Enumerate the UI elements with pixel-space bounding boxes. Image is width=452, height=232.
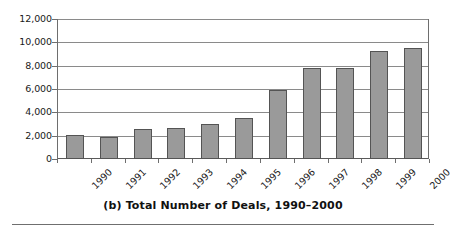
bar-1997 [303,68,321,159]
x-tick-label: 1993 [191,167,215,191]
x-tick-label: 1990 [90,167,114,191]
y-tick-label: 12,000 [0,14,52,24]
bar-1992 [134,129,152,159]
bar-2000 [404,48,422,159]
bar-1998 [336,68,354,159]
x-tick-label: 1997 [327,167,351,191]
x-tick-label: 1999 [394,167,418,191]
y-tick-label: 10,000 [0,38,52,48]
figure-caption: (b) Total Number of Deals, 1990–2000 [0,199,446,212]
y-tick-label: 4,000 [0,108,52,118]
x-tick-label: 1991 [124,167,148,191]
y-axis-labels: 02,0004,0006,0008,00010,00012,000 [0,19,52,159]
x-tick-mark [429,159,430,163]
x-tick-label: 1994 [225,167,249,191]
x-tick-label: 1998 [361,167,385,191]
y-tick-label: 0 [0,154,52,164]
bar-1995 [235,118,253,159]
x-tick-label: 2000 [428,167,452,191]
y-tick-label: 6,000 [0,84,52,94]
y-tick-label: 2,000 [0,131,52,141]
plot-area [57,19,429,159]
bottom-divider [12,224,434,225]
bar-1999 [370,51,388,160]
bar-1994 [201,124,219,159]
y-tick-label: 8,000 [0,61,52,71]
x-axis-labels: 1990199119921993199419951996199719981999… [57,163,429,199]
bar-1996 [269,90,287,159]
bar-series [58,19,428,159]
x-tick-label: 1996 [293,167,317,191]
bar-1990 [66,135,84,160]
bar-1991 [100,137,118,159]
bar-1993 [167,128,185,159]
x-tick-label: 1995 [259,167,283,191]
x-tick-label: 1992 [158,167,182,191]
